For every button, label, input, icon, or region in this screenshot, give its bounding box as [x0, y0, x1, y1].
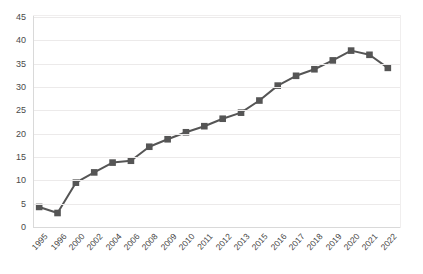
x-axis-tick-label: 1995 [31, 232, 50, 252]
x-axis-tick-label: 2000 [67, 232, 86, 252]
gridline [33, 157, 400, 158]
y-axis-tick-label: 30 [16, 83, 26, 92]
data-point-marker [164, 136, 171, 143]
x-axis-tick-label: 2011 [196, 232, 215, 252]
series-line [39, 51, 388, 213]
y-axis-line [33, 15, 34, 228]
data-point-marker [385, 65, 392, 72]
data-point-marker [293, 73, 300, 80]
x-axis-tick-label: 2012 [214, 232, 233, 252]
x-axis: 1995199620002002200420062008200920102011… [0, 230, 423, 274]
series-markers [36, 47, 391, 216]
gridline [33, 110, 400, 111]
gridline [33, 204, 400, 205]
data-point-marker [366, 52, 373, 59]
x-axis-tick-label: 2017 [287, 232, 306, 252]
y-axis-tick-label: 35 [16, 59, 26, 68]
x-axis-tick-label: 2006 [122, 232, 141, 252]
x-axis-tick-label: 2022 [379, 232, 398, 252]
y-axis-tick-label: 40 [16, 36, 26, 45]
x-axis-tick-label: 2013 [232, 232, 251, 252]
y-axis-tick-label: 20 [16, 129, 26, 138]
gridline [33, 134, 400, 135]
line-chart: 051015202530354045 199519962000200220042… [0, 0, 423, 274]
x-axis-tick-label: 2021 [361, 232, 380, 252]
data-point-marker [256, 97, 263, 104]
x-axis-tick-label: 2018 [306, 232, 325, 252]
y-axis-tick-label: 15 [16, 153, 26, 162]
gridline [33, 64, 400, 65]
y-axis-tick-label: 45 [16, 13, 26, 22]
x-axis-tick-label: 2019 [324, 232, 343, 252]
x-axis-tick-label: 2002 [86, 232, 105, 252]
plot-area [33, 17, 400, 227]
data-point-marker [54, 210, 61, 217]
gridline [33, 87, 400, 88]
y-axis-tick-label: 5 [21, 199, 26, 208]
x-axis-line [33, 227, 401, 228]
y-axis-tick-label: 10 [16, 176, 26, 185]
data-point-marker [201, 123, 208, 130]
series-line-group [33, 17, 400, 227]
x-axis-tick-label: 2010 [177, 232, 196, 252]
x-axis-tick-label: 2016 [269, 232, 288, 252]
x-axis-tick-label: 1996 [49, 232, 68, 252]
data-point-marker [91, 169, 98, 176]
gridline [33, 180, 400, 181]
x-axis-tick-label: 2015 [251, 232, 270, 252]
x-axis-tick-label: 2020 [342, 232, 361, 252]
y-axis-tick-label: 25 [16, 106, 26, 115]
x-axis-tick-label: 2004 [104, 232, 123, 252]
data-point-marker [311, 66, 318, 73]
x-axis-tick-label: 2009 [159, 232, 178, 252]
plot-top-border [33, 15, 401, 16]
data-point-marker [219, 115, 226, 122]
data-point-marker [128, 157, 135, 164]
gridline [33, 40, 400, 41]
data-point-marker [109, 159, 116, 166]
data-point-marker [348, 47, 355, 54]
x-axis-tick-label: 2008 [141, 232, 160, 252]
data-point-marker [146, 143, 153, 150]
plot-right-border [400, 15, 401, 228]
gridline [33, 17, 400, 18]
